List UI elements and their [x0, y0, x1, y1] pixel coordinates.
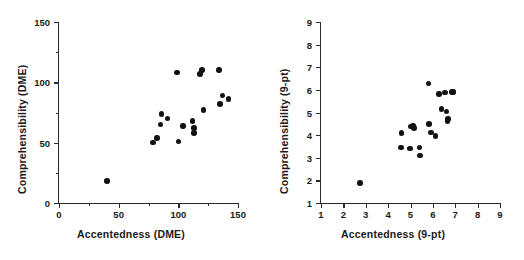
x-tick-label-left: 50: [113, 209, 124, 220]
data-point: [399, 130, 405, 136]
x-tick-label-right: 6: [430, 209, 435, 220]
y-tick-right: [316, 180, 321, 181]
x-tick-label-right: 7: [453, 209, 458, 220]
data-point: [417, 145, 423, 151]
y-tick-right: [316, 113, 321, 114]
x-tick-label-right: 5: [408, 209, 413, 220]
data-point: [451, 89, 457, 95]
x-tick-label-right: 2: [341, 209, 346, 220]
x-tick-label-left: 100: [170, 209, 186, 220]
y-tick-left: [54, 143, 59, 144]
data-point: [398, 145, 404, 151]
data-point: [217, 101, 223, 107]
plot-area-right: 123456789123456789: [320, 22, 500, 204]
y-tick-right: [316, 158, 321, 159]
y-tick-label-right: 1: [307, 198, 312, 209]
data-point: [165, 116, 171, 122]
data-point: [150, 140, 156, 146]
x-tick-label-right: 8: [475, 209, 480, 220]
y-tick-label-right: 6: [307, 84, 312, 95]
data-point: [220, 93, 226, 99]
x-tick-right: [321, 203, 322, 208]
data-point: [154, 135, 160, 141]
x-tick-label-right: 3: [363, 209, 368, 220]
data-point: [191, 130, 197, 136]
x-tick-label-right: 9: [497, 209, 502, 220]
data-point: [176, 139, 182, 145]
scatter-plot-figure: 050100150050100150 Accentedness (DME) Co…: [0, 0, 524, 260]
data-point: [433, 133, 439, 139]
data-point: [417, 153, 423, 159]
y-tick-right: [316, 90, 321, 91]
x-tick-left: [119, 203, 120, 208]
x-tick-right: [388, 203, 389, 208]
y-axis-title-left: Comprehensibility (DME): [16, 65, 28, 194]
x-minor-tick-left: [89, 203, 90, 206]
data-point: [442, 90, 448, 96]
y-axis-title-right: Comprehensibility (9-pt): [278, 68, 290, 194]
y-tick-right: [316, 135, 321, 136]
y-tick-left: [54, 203, 59, 204]
y-tick-label-right: 5: [307, 107, 312, 118]
y-minor-tick-left: [56, 173, 59, 174]
data-point: [436, 91, 442, 97]
data-point: [158, 122, 164, 128]
data-point: [190, 118, 196, 124]
data-point: [444, 109, 450, 115]
y-tick-label-right: 9: [307, 17, 312, 28]
x-tick-right: [478, 203, 479, 208]
data-point: [426, 121, 432, 127]
x-axis-title-left: Accentedness (DME): [0, 228, 262, 240]
data-point: [199, 67, 205, 73]
data-point: [201, 107, 207, 113]
x-minor-tick-left: [208, 203, 209, 206]
x-tick-right: [366, 203, 367, 208]
y-minor-tick-left: [56, 113, 59, 114]
y-tick-left: [54, 22, 59, 23]
x-tick-left: [238, 203, 239, 208]
data-point: [216, 67, 222, 73]
y-tick-label-right: 7: [307, 62, 312, 73]
y-tick-label-right: 8: [307, 39, 312, 50]
y-tick-right: [316, 45, 321, 46]
y-tick-label-left: 50: [39, 137, 50, 148]
data-point: [159, 111, 165, 117]
x-tick-label-right: 1: [318, 209, 323, 220]
data-point: [411, 125, 417, 131]
y-tick-label-left: 0: [45, 198, 50, 209]
panel-right-9pt: 123456789123456789 Accentedness (9-pt) C…: [262, 0, 524, 260]
y-tick-label-right: 2: [307, 175, 312, 186]
y-tick-right: [316, 22, 321, 23]
y-tick-left: [54, 82, 59, 83]
data-point: [357, 180, 363, 186]
x-tick-left: [59, 203, 60, 208]
y-tick-label-right: 4: [307, 130, 312, 141]
data-point: [174, 70, 180, 76]
x-tick-right: [455, 203, 456, 208]
y-tick-label-right: 3: [307, 152, 312, 163]
y-tick-label-left: 150: [34, 17, 50, 28]
x-tick-label-left: 0: [56, 209, 61, 220]
plot-area-left: 050100150050100150: [58, 22, 238, 204]
x-tick-right: [411, 203, 412, 208]
y-tick-right: [316, 67, 321, 68]
data-point: [180, 123, 186, 129]
x-tick-right: [500, 203, 501, 208]
data-point: [445, 116, 451, 122]
x-tick-label-right: 4: [385, 209, 390, 220]
data-point: [104, 178, 110, 184]
x-tick-label-left: 150: [230, 209, 246, 220]
data-point: [407, 146, 413, 152]
y-tick-right: [316, 203, 321, 204]
y-minor-tick-left: [56, 52, 59, 53]
x-tick-right: [343, 203, 344, 208]
data-point: [426, 81, 432, 87]
x-axis-title-right: Accentedness (9-pt): [262, 228, 524, 240]
x-minor-tick-left: [149, 203, 150, 206]
x-tick-left: [178, 203, 179, 208]
data-point: [226, 96, 232, 102]
y-tick-label-left: 100: [34, 77, 50, 88]
x-tick-right: [433, 203, 434, 208]
panel-left-dme: 050100150050100150 Accentedness (DME) Co…: [0, 0, 262, 260]
